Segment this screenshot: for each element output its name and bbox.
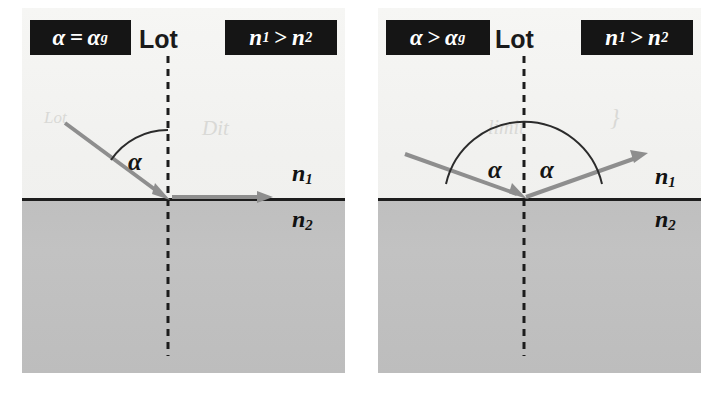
medium-label-n1-letter: n <box>655 163 668 189</box>
index-badge-n1: n <box>249 26 262 49</box>
index-badge-n2-sub: 2 <box>661 30 669 44</box>
ray-svg-left <box>22 8 345 373</box>
medium-label-n1-sub: 1 <box>668 174 675 190</box>
condition-badge-reference: α <box>88 26 101 49</box>
index-badge-n1-sub: 1 <box>618 30 626 44</box>
medium-label-n2-letter: n <box>292 206 305 232</box>
critical-angle-panel: Dit Lot α α = αg n1 > <box>22 8 345 373</box>
condition-badge-alpha: α <box>53 26 66 49</box>
normal-label: Lot <box>495 25 534 54</box>
condition-badge-operator: = <box>66 26 88 49</box>
figure-canvas: Dit Lot α α = αg n1 > <box>0 0 724 396</box>
medium-label-n2-sub: 2 <box>668 217 675 233</box>
normal-label: Lot <box>139 25 178 54</box>
condition-badge-operator: > <box>423 26 445 49</box>
medium-label-n1-letter: n <box>292 160 305 186</box>
angle-label-alpha: α <box>128 148 142 176</box>
medium-label-n2-letter: n <box>655 206 668 232</box>
index-badge-operator: > <box>626 26 648 49</box>
angle-label-alpha-incident: α <box>488 156 502 184</box>
index-badge-operator: > <box>270 26 292 49</box>
condition-badge: α > αg <box>386 20 490 55</box>
medium-label-n1: n1 <box>292 160 313 188</box>
ray-svg-right <box>378 8 701 373</box>
condition-badge-reference: α <box>445 26 458 49</box>
incident-ray-arrowhead <box>509 183 527 199</box>
condition-badge-alpha: α <box>410 26 423 49</box>
angle-label-alpha-reflected: α <box>540 156 554 184</box>
total-internal-reflection-panel: limit } α α α > αg n1 > n2 L <box>378 8 701 373</box>
medium-label-n2: n2 <box>655 206 676 234</box>
refracted-ray-arrowhead <box>257 191 273 203</box>
index-badge-n2: n <box>292 26 305 49</box>
index-badge: n1 > n2 <box>581 20 693 55</box>
index-badge: n1 > n2 <box>225 20 337 55</box>
medium-label-n1: n1 <box>655 163 676 191</box>
medium-label-n2-sub: 2 <box>305 217 312 233</box>
angle-arc-alpha-pair <box>446 122 602 184</box>
medium-label-n1-sub: 1 <box>305 171 312 187</box>
condition-badge: α = αg <box>30 20 131 55</box>
medium-label-n2: n2 <box>292 206 313 234</box>
incident-ray-arrowhead <box>152 183 170 200</box>
index-badge-n2-sub: 2 <box>305 30 313 44</box>
index-badge-n1-sub: 1 <box>262 30 270 44</box>
index-badge-n2: n <box>648 26 661 49</box>
index-badge-n1: n <box>605 26 618 49</box>
condition-badge-reference-sub: g <box>458 30 466 44</box>
condition-badge-reference-sub: g <box>101 30 109 44</box>
